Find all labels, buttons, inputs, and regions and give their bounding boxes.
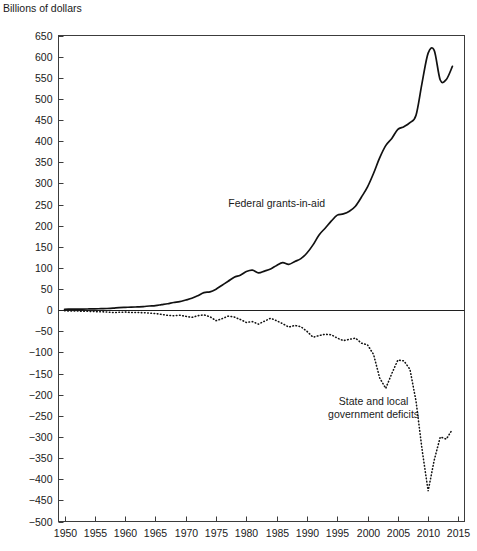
y-tick-label: 350 bbox=[35, 156, 53, 168]
plot-frame bbox=[59, 36, 465, 522]
x-axis-tick-marks bbox=[66, 517, 459, 522]
federal-grants-in-aid-line bbox=[65, 48, 453, 310]
y-tick-label: −500 bbox=[29, 516, 53, 528]
x-tick-label: 2010 bbox=[417, 527, 441, 539]
x-tick-label: 1995 bbox=[326, 527, 350, 539]
x-tick-label: 1970 bbox=[175, 527, 199, 539]
y-tick-label: −450 bbox=[29, 494, 53, 506]
x-tick-label: 2015 bbox=[447, 527, 471, 539]
x-tick-label: 1990 bbox=[296, 527, 320, 539]
y-axis-tick-labels: −500−450−400−350−300−250−200−150−100−500… bbox=[29, 30, 53, 528]
state-local-annotation-line1: State and local bbox=[339, 395, 408, 407]
y-tick-label: 300 bbox=[35, 177, 53, 189]
x-tick-label: 2000 bbox=[357, 527, 381, 539]
x-axis-tick-labels: 1950195519601965197019751980198519901995… bbox=[54, 527, 471, 539]
federal-grants-annotation: Federal grants-in-aid bbox=[228, 197, 325, 209]
x-tick-label: 1965 bbox=[144, 527, 168, 539]
x-tick-label: 2005 bbox=[387, 527, 411, 539]
y-tick-label: −250 bbox=[29, 410, 53, 422]
y-tick-label: 50 bbox=[41, 283, 53, 295]
x-tick-label: 1955 bbox=[84, 527, 108, 539]
x-tick-label: 1950 bbox=[54, 527, 78, 539]
y-tick-label: 500 bbox=[35, 93, 53, 105]
y-tick-label: −300 bbox=[29, 431, 53, 443]
y-tick-label: −50 bbox=[35, 325, 53, 337]
y-tick-label: −200 bbox=[29, 389, 53, 401]
x-tick-label: 1960 bbox=[114, 527, 138, 539]
y-tick-label: 450 bbox=[35, 114, 53, 126]
y-tick-label: 200 bbox=[35, 220, 53, 232]
line-chart-plot: −500−450−400−350−300−250−200−150−100−500… bbox=[0, 0, 477, 551]
x-tick-label: 1975 bbox=[205, 527, 229, 539]
x-tick-label: 1980 bbox=[235, 527, 259, 539]
y-tick-label: 0 bbox=[47, 304, 53, 316]
y-tick-label: 600 bbox=[35, 51, 53, 63]
y-tick-label: 650 bbox=[35, 30, 53, 42]
y-tick-label: 150 bbox=[35, 241, 53, 253]
y-tick-label: 400 bbox=[35, 135, 53, 147]
y-tick-label: 100 bbox=[35, 262, 53, 274]
y-tick-label: 550 bbox=[35, 72, 53, 84]
y-tick-label: 250 bbox=[35, 199, 53, 211]
y-tick-label: −400 bbox=[29, 473, 53, 485]
y-tick-label: −150 bbox=[29, 368, 53, 380]
y-axis-tick-marks bbox=[59, 37, 64, 523]
state-local-annotation-line2: government deficits bbox=[328, 408, 419, 420]
y-tick-label: −100 bbox=[29, 346, 53, 358]
y-tick-label: −350 bbox=[29, 452, 53, 464]
x-tick-label: 1985 bbox=[266, 527, 290, 539]
chart-container: Billions of dollars −500−450−400−350−300… bbox=[0, 0, 477, 551]
